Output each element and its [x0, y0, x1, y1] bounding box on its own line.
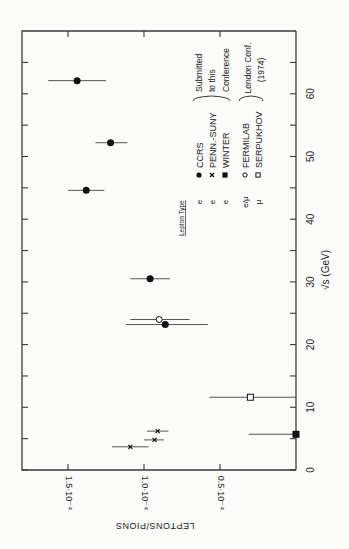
y-axis-ticks: 0.5·10⁻⁴1.0·10⁻⁴1.5·10⁻⁴: [64, 31, 226, 510]
legend-lepton: μ: [254, 199, 263, 204]
legend-brace: [239, 96, 263, 101]
data-point: [107, 139, 114, 146]
x-tick-label: 30: [305, 276, 316, 288]
chart-figure: 0102030405060√s (GeV)0.5·10⁻⁴1.0·10⁻⁴1.5…: [0, 0, 349, 549]
series-serpukhov: [209, 394, 296, 400]
legend-label: SERPUKHOV: [254, 111, 264, 168]
legend-lepton: e: [221, 199, 230, 204]
legend-entry: μSERPUKHOV: [254, 111, 264, 204]
legend-label: CCRS: [195, 142, 205, 168]
x-axis-label: √s (GeV): [320, 250, 331, 290]
data-point: [83, 187, 90, 194]
legend-label: FERMILAB: [241, 123, 251, 168]
chart-canvas: 0102030405060√s (GeV)0.5·10⁻⁴1.0·10⁻⁴1.5…: [0, 0, 349, 549]
legend-group-text: to this: [207, 69, 217, 92]
legend-entry: eCCRS: [195, 142, 205, 204]
data-point: [162, 321, 169, 328]
data-point: [147, 275, 154, 282]
legend-lepton: e: [195, 199, 204, 204]
x-tick-label: 60: [305, 88, 316, 100]
legend-entry: eWINTER: [221, 132, 231, 204]
legend-lepton: e/μ: [241, 196, 250, 208]
y-axis-label: LEPTONS/PIONS: [116, 521, 195, 531]
data-point: [247, 394, 253, 400]
legend-label: PENN.-SUNY: [208, 112, 218, 168]
legend-entry: ePENN.-SUNY: [208, 112, 218, 204]
legend-group-text: Submitted: [194, 53, 204, 92]
x-tick-label: 20: [305, 339, 316, 351]
legend-brace: [193, 96, 230, 101]
data-point: [293, 431, 300, 438]
x-axis-ticks: 0102030405060: [22, 62, 316, 472]
x-tick-label: 10: [305, 401, 316, 413]
legend-group-text: (1974): [256, 58, 266, 83]
series-winter: [249, 431, 300, 438]
legend-label: WINTER: [221, 132, 231, 168]
data-point: [156, 317, 162, 323]
y-tick-label: 1.5·10⁻⁴: [64, 476, 74, 511]
x-tick-label: 50: [305, 151, 316, 163]
legend-group-text: Conference: [221, 48, 231, 92]
legend-header: Lepton Type: [178, 200, 186, 236]
y-tick-label: 0.5·10⁻⁴: [216, 476, 226, 511]
legend-entry: e/μFERMILAB: [241, 123, 251, 208]
data-point: [74, 77, 81, 84]
x-tick-label: 40: [305, 213, 316, 225]
x-tick-label: 0: [305, 467, 316, 473]
series-fermilab: [130, 317, 189, 323]
legend-lepton: e: [208, 199, 217, 204]
legend: Lepton TypeeCCRSePENN.-SUNYeWINTERe/μFER…: [178, 42, 266, 236]
y-tick-label: 1.0·10⁻⁴: [140, 476, 150, 511]
legend-group-text: London Conf.: [243, 42, 253, 93]
series-penn-suny: [112, 429, 168, 449]
